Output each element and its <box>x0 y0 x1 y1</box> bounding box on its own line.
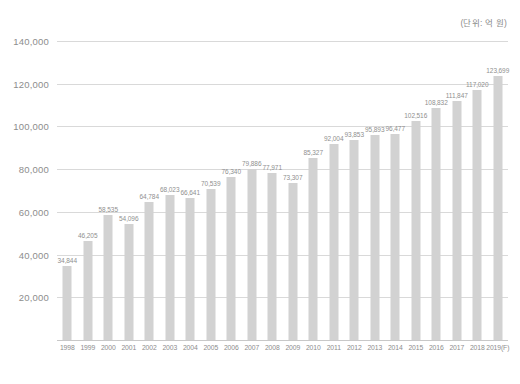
bar-value-label: 64,784 <box>140 193 159 200</box>
y-axis-tick-label: 80,000 <box>19 164 49 175</box>
bar-group: 76,3402006 <box>221 41 242 340</box>
bar[interactable] <box>247 169 256 340</box>
x-axis-tick-label: 2006 <box>224 344 239 351</box>
bar-value-label: 85,327 <box>304 149 323 156</box>
bar[interactable] <box>83 241 92 340</box>
bar[interactable] <box>432 108 441 340</box>
bar[interactable] <box>370 135 379 340</box>
x-axis-tick-label: 2009 <box>285 344 300 351</box>
bar-chart: (단위: 억 원) 20,00040,00060,00080,000100,00… <box>0 0 520 384</box>
bar-value-label: 111,847 <box>446 92 468 99</box>
x-axis-tick-label: 2005 <box>203 344 218 351</box>
bar-group: 123,6992019(F) <box>488 41 509 340</box>
bar-group: 46,2051999 <box>78 41 99 340</box>
bar-value-label: 66,641 <box>181 189 200 196</box>
bar[interactable] <box>329 144 338 340</box>
bar-group: 96,4772014 <box>385 41 406 340</box>
x-axis-tick-label: 2001 <box>121 344 136 351</box>
bar[interactable] <box>268 173 277 340</box>
y-axis-tick-label: 100,000 <box>13 121 49 132</box>
x-axis-tick-label: 2017 <box>449 344 464 351</box>
bar-value-label: 58,535 <box>99 206 118 213</box>
bar-group: 108,8322016 <box>426 41 447 340</box>
bar[interactable] <box>473 90 482 340</box>
unit-caption: (단위: 억 원) <box>460 16 507 28</box>
bar-group: 54,0962001 <box>119 41 140 340</box>
bar[interactable] <box>124 224 133 340</box>
bar-group: 34,8441998 <box>57 41 78 340</box>
bar[interactable] <box>493 76 502 340</box>
x-axis-tick-label: 2004 <box>183 344 198 351</box>
x-axis-tick-label: 2007 <box>244 344 259 351</box>
bar-group: 68,0232003 <box>160 41 181 340</box>
bar-value-label: 117,020 <box>466 81 488 88</box>
x-axis-tick-label: 2014 <box>388 344 403 351</box>
bar-group: 93,8532012 <box>344 41 365 340</box>
bar-group: 92,0042011 <box>324 41 345 340</box>
x-axis-tick-label: 1999 <box>80 344 95 351</box>
bar[interactable] <box>452 101 461 340</box>
bar-value-label: 68,023 <box>160 186 179 193</box>
y-axis-tick-label: 60,000 <box>19 206 49 217</box>
x-axis-tick-label: 2003 <box>162 344 177 351</box>
bar-series: 34,844199846,205199958,535200054,0962001… <box>57 41 508 340</box>
bar-group: 66,6412004 <box>180 41 201 340</box>
x-axis-tick-label: 1998 <box>60 344 75 351</box>
bar[interactable] <box>391 134 400 340</box>
bar[interactable] <box>104 215 113 340</box>
bar[interactable] <box>288 183 297 340</box>
x-axis-tick-label: 2010 <box>306 344 321 351</box>
x-axis-baseline <box>57 340 508 341</box>
bar[interactable] <box>145 202 154 340</box>
bar-group: 77,9712008 <box>262 41 283 340</box>
bar[interactable] <box>186 198 195 340</box>
bar-group: 70,5392005 <box>201 41 222 340</box>
bar[interactable] <box>411 121 420 340</box>
bar-value-label: 34,844 <box>58 257 77 264</box>
x-axis-tick-label: 2019(F) <box>486 344 509 351</box>
bar[interactable] <box>165 195 174 340</box>
x-axis-tick-label: 2011 <box>327 344 341 351</box>
bar-group: 85,3272010 <box>303 41 324 340</box>
bar-value-label: 96,477 <box>386 125 405 132</box>
bar-value-label: 123,699 <box>486 67 509 74</box>
bar[interactable] <box>309 158 318 340</box>
bar-group: 111,8472017 <box>447 41 468 340</box>
bar-group: 73,3072009 <box>283 41 304 340</box>
x-axis-tick-label: 2002 <box>142 344 157 351</box>
x-axis-tick-label: 2016 <box>429 344 444 351</box>
bar-group: 117,0202018 <box>467 41 488 340</box>
bar-value-label: 92,004 <box>324 135 343 142</box>
y-axis-tick-label: 40,000 <box>19 249 49 260</box>
x-axis-tick-label: 2018 <box>470 344 485 351</box>
bar-group: 64,7842002 <box>139 41 160 340</box>
bar-group: 95,8932013 <box>365 41 386 340</box>
x-axis-tick-label: 2015 <box>408 344 423 351</box>
bar-value-label: 77,971 <box>263 164 282 171</box>
bar[interactable] <box>206 189 215 340</box>
x-axis-tick-label: 2012 <box>347 344 362 351</box>
x-axis-tick-label: 2013 <box>367 344 382 351</box>
y-axis-tick-label: 140,000 <box>13 36 49 47</box>
x-axis-tick-label: 2008 <box>265 344 280 351</box>
plot-area: 20,00040,00060,00080,000100,000120,00014… <box>57 41 508 340</box>
bar-value-label: 95,893 <box>365 126 384 133</box>
x-axis-tick-label: 2000 <box>101 344 116 351</box>
bar-value-label: 108,832 <box>425 99 448 106</box>
bar-value-label: 93,853 <box>345 131 364 138</box>
bar-value-label: 70,539 <box>201 180 220 187</box>
bar-value-label: 54,096 <box>119 215 138 222</box>
bar-value-label: 73,307 <box>283 174 302 181</box>
bar-group: 79,8862007 <box>242 41 263 340</box>
bar-value-label: 76,340 <box>222 168 241 175</box>
bar-value-label: 46,205 <box>78 232 97 239</box>
y-axis-tick-label: 20,000 <box>19 292 49 303</box>
bar[interactable] <box>227 177 236 340</box>
bar-value-label: 79,886 <box>242 160 261 167</box>
y-axis-tick-label: 120,000 <box>13 78 49 89</box>
bar-value-label: 102,516 <box>404 112 427 119</box>
bar[interactable] <box>350 140 359 340</box>
bar-group: 102,5162015 <box>406 41 427 340</box>
bar[interactable] <box>63 266 72 340</box>
bar-group: 58,5352000 <box>98 41 119 340</box>
